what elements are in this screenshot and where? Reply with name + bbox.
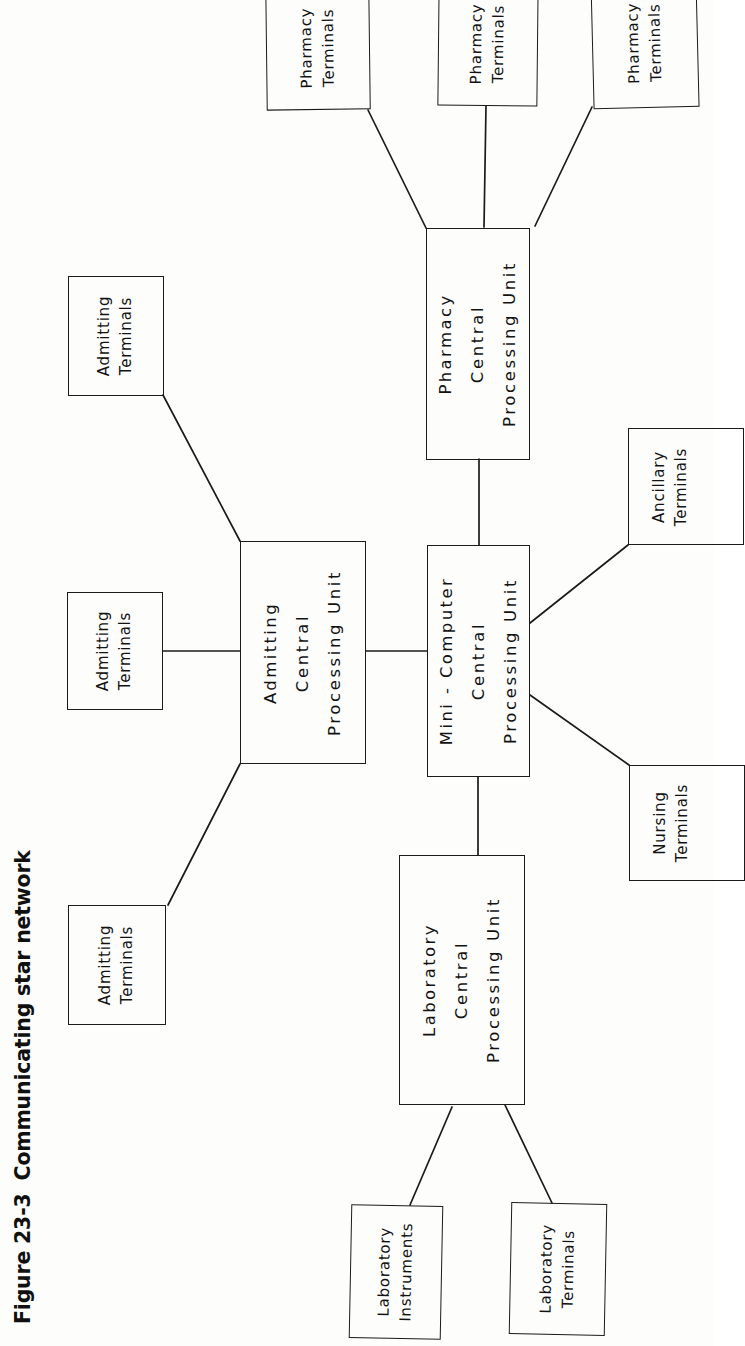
pharmacy-terminals-3-line2: Terminals (644, 3, 668, 82)
admitting-terminals-2-line1: Admitting (93, 611, 115, 691)
edge-admitting-cpu-to-terminal-1 (163, 395, 240, 541)
admitting-terminals-3-line2: Terminals (117, 926, 139, 1004)
laboratory-instruments-line1: Laboratory (373, 1227, 396, 1317)
node-admitting-terminals-1[interactable]: Admitting Terminals (68, 276, 164, 396)
admitting-terminals-3-line1: Admitting (95, 925, 117, 1005)
pharmacy-terminals-2-line2: Terminals (488, 5, 511, 84)
edge-pharmacy-cpu-to-terminal-3 (535, 107, 592, 226)
edge-admitting-cpu-to-terminal-3 (168, 764, 240, 905)
figure-title: Communicating star network (11, 850, 35, 1180)
node-laboratory-terminals[interactable]: Laboratory Terminals (509, 1202, 608, 1336)
node-pharmacy-cpu[interactable]: Pharmacy Central Processing Unit (426, 228, 530, 460)
ancillary-terminals-line2: Terminals (671, 447, 693, 525)
pharmacy-terminals-3-line1: Pharmacy (622, 3, 646, 84)
node-ancillary-terminals[interactable]: Ancillary Terminals (628, 428, 744, 545)
node-pharmacy-terminals-1[interactable]: Pharmacy Terminals (265, 0, 371, 111)
node-pharmacy-terminals-2[interactable]: Pharmacy Terminals (437, 0, 538, 107)
nursing-terminals-line2: Terminals (672, 784, 694, 862)
node-pharmacy-terminals-3[interactable]: Pharmacy Terminals (590, 0, 699, 109)
laboratory-terminals-line2: Terminals (557, 1230, 580, 1309)
admitting-cpu-line3: Processing Unit (319, 570, 351, 736)
nursing-terminals-line1: Nursing (650, 791, 672, 855)
node-laboratory-cpu[interactable]: Laboratory Central Processing Unit (399, 855, 525, 1105)
edge-mini-to-nursing (530, 695, 629, 765)
mini-computer-cpu-line2: Central (462, 622, 494, 700)
laboratory-terminals-line1: Laboratory (535, 1224, 558, 1314)
pharmacy-cpu-line2: Central (462, 305, 494, 383)
node-admitting-cpu[interactable]: Admitting Central Processing Unit (240, 541, 366, 764)
node-nursing-terminals[interactable]: Nursing Terminals (629, 765, 745, 881)
laboratory-instruments-line2: Instruments (395, 1222, 419, 1322)
figure-number: Figure 23-3 (11, 1193, 35, 1324)
pharmacy-cpu-line3: Processing Unit (494, 261, 526, 427)
laboratory-cpu-line3: Processing Unit (478, 897, 510, 1063)
pharmacy-terminals-2-line1: Pharmacy (466, 3, 489, 84)
admitting-cpu-line1: Admitting (255, 601, 287, 703)
figure-caption: Figure 23-3 Communicating star network (0, 0, 46, 1346)
edge-pharmacy-cpu-to-terminal-1 (368, 110, 426, 228)
laboratory-cpu-line2: Central (446, 941, 478, 1019)
mini-computer-cpu-line1: Mini - Computer (430, 577, 462, 745)
laboratory-cpu-line1: Laboratory (414, 923, 446, 1037)
pharmacy-terminals-1-line1: Pharmacy (296, 8, 319, 89)
node-admitting-terminals-2[interactable]: Admitting Terminals (67, 592, 163, 710)
edge-mini-to-ancillary (530, 545, 628, 623)
admitting-cpu-line2: Central (287, 613, 319, 691)
edge-pharmacy-cpu-to-terminal-2 (484, 106, 486, 227)
node-admitting-terminals-3[interactable]: Admitting Terminals (68, 905, 166, 1025)
mini-computer-cpu-line3: Processing Unit (495, 578, 527, 744)
node-laboratory-instruments[interactable]: Laboratory Instruments (349, 1204, 444, 1340)
node-mini-computer-cpu[interactable]: Mini - Computer Central Processing Unit (427, 545, 530, 777)
ancillary-terminals-line1: Ancillary (649, 451, 671, 523)
pharmacy-terminals-1-line2: Terminals (318, 9, 341, 88)
pharmacy-cpu-line1: Pharmacy (430, 293, 462, 394)
admitting-terminals-1-line2: Terminals (116, 297, 138, 375)
edge-lab-cpu-to-instruments (410, 1107, 452, 1205)
admitting-terminals-2-line2: Terminals (115, 612, 137, 690)
edge-lab-cpu-to-terminals (505, 1105, 552, 1203)
admitting-terminals-1-line1: Admitting (94, 296, 116, 376)
